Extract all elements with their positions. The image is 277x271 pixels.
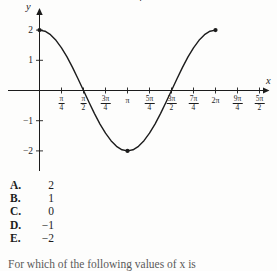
x-tick-label: 2π: [211, 97, 219, 104]
answer-choice-c: C. 0: [10, 205, 54, 218]
answer-letter: A.: [10, 179, 38, 192]
y-tick-label: −2: [9, 146, 33, 156]
graph-labels-layer: y x 21−1−2π4π23π4π5π43π27π42π9π45π2: [0, 0, 277, 176]
x-tick-label: 3π4: [100, 95, 111, 111]
x-tick-label: 9π4: [232, 95, 243, 111]
answer-letter: E.: [10, 232, 38, 245]
answer-choice-a: A. 2: [10, 179, 54, 192]
x-axis-label: x: [266, 76, 271, 86]
x-tick-label: π2: [80, 95, 87, 111]
answer-letter: D.: [10, 219, 38, 232]
x-tick-label: 3π2: [166, 95, 177, 111]
y-tick-label: 2: [9, 25, 33, 35]
answer-choices: A. 2 B. 1 C. 0 D. −1 E. −2: [10, 179, 54, 245]
function-graph: y x 21−1−2π4π23π4π5π43π27π42π9π45π2: [0, 0, 277, 176]
answer-value: 0: [38, 205, 54, 218]
y-tick-label: −1: [9, 116, 33, 126]
answer-choice-d: D. −1: [10, 219, 54, 232]
answer-value: 2: [38, 179, 54, 192]
x-tick-label: 7π4: [188, 95, 199, 111]
x-tick-label: π: [125, 97, 129, 104]
answer-letter: B.: [10, 192, 38, 205]
y-axis-label: y: [26, 2, 31, 12]
x-tick-label: 5π4: [144, 95, 155, 111]
answer-value: −1: [38, 219, 54, 232]
question-text-clipped: For which of the following values of x i…: [8, 257, 268, 271]
answer-letter: C.: [10, 205, 38, 218]
answer-value: 1: [38, 192, 54, 205]
x-tick-label: π4: [58, 95, 65, 111]
answer-choice-e: E. −2: [10, 232, 54, 245]
x-tick-label: 5π2: [254, 95, 265, 111]
y-tick-label: 1: [9, 55, 33, 65]
answer-value: −2: [38, 232, 54, 245]
answer-choice-b: B. 1: [10, 192, 54, 205]
